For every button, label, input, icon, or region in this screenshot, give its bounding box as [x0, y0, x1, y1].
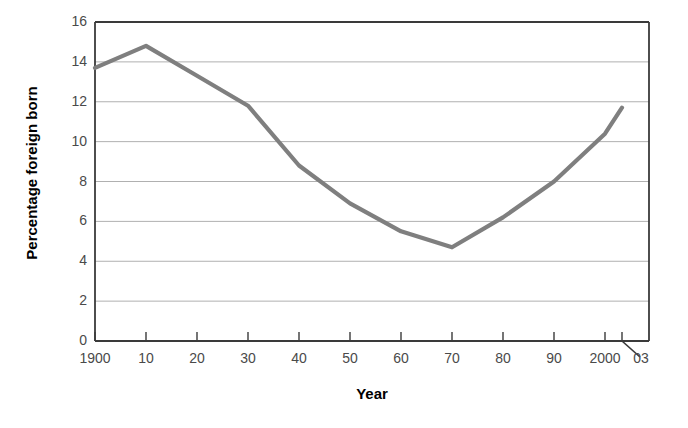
x-tick-label: 20	[170, 350, 224, 366]
x-tick-label: 90	[527, 350, 581, 366]
x-tick-label: 1900	[68, 350, 122, 366]
x-tick-label: 70	[425, 350, 479, 366]
x-tick-label: 30	[221, 350, 275, 366]
y-tick-label: 12	[47, 93, 87, 109]
y-tick-label: 2	[47, 292, 87, 308]
x-tick-label: 60	[374, 350, 428, 366]
y-tick-label: 4	[47, 252, 87, 268]
x-tick-label: 80	[476, 350, 530, 366]
y-tick-label: 0	[47, 332, 87, 348]
y-tick-label: 10	[47, 133, 87, 149]
x-axis-label: Year	[95, 385, 649, 402]
chart-figure: Percentage foreign born Year 02468101214…	[0, 0, 688, 428]
x-tick-label: 50	[323, 350, 377, 366]
gridlines	[95, 62, 649, 301]
y-tick-label: 14	[47, 53, 87, 69]
y-tick-label: 16	[47, 13, 87, 29]
x-tick-label: 40	[272, 350, 326, 366]
y-tick-label: 6	[47, 212, 87, 228]
y-axis-label: Percentage foreign born	[18, 3, 44, 343]
data-series-line	[95, 46, 622, 247]
y-tick-label: 8	[47, 173, 87, 189]
x-axis-ticks	[95, 332, 622, 341]
x-tick-label: 03	[614, 350, 668, 366]
x-tick-label: 10	[119, 350, 173, 366]
